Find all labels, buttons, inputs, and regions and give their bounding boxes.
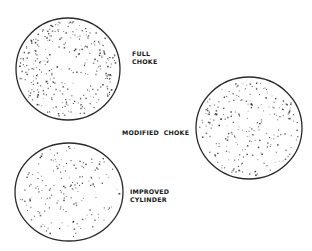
full-choke-pattern	[16, 18, 120, 120]
improved-cylinder-label: IMPROVED CYLINDER	[130, 188, 169, 204]
modified-choke-label-line-1: MODIFIED CHOKE	[122, 129, 189, 137]
full-choke-label-line-2: CHOKE	[132, 58, 157, 66]
pattern-canvas	[0, 0, 312, 251]
full-choke-label-line-1: FULL	[132, 50, 157, 58]
improved-cylinder-circle	[15, 143, 123, 241]
improved-cylinder-label-line-2: CYLINDER	[130, 196, 169, 204]
shot-pattern-diagram: FULL CHOKE MODIFIED CHOKE IMPROVED CYLIN…	[0, 0, 312, 251]
modified-choke-circle	[196, 77, 302, 179]
improved-cylinder-label-line-1: IMPROVED	[130, 188, 169, 196]
full-choke-label: FULL CHOKE	[132, 50, 157, 66]
modified-choke-pattern	[196, 77, 302, 179]
modified-choke-label: MODIFIED CHOKE	[122, 129, 189, 137]
improved-cylinder-pattern	[15, 143, 123, 241]
